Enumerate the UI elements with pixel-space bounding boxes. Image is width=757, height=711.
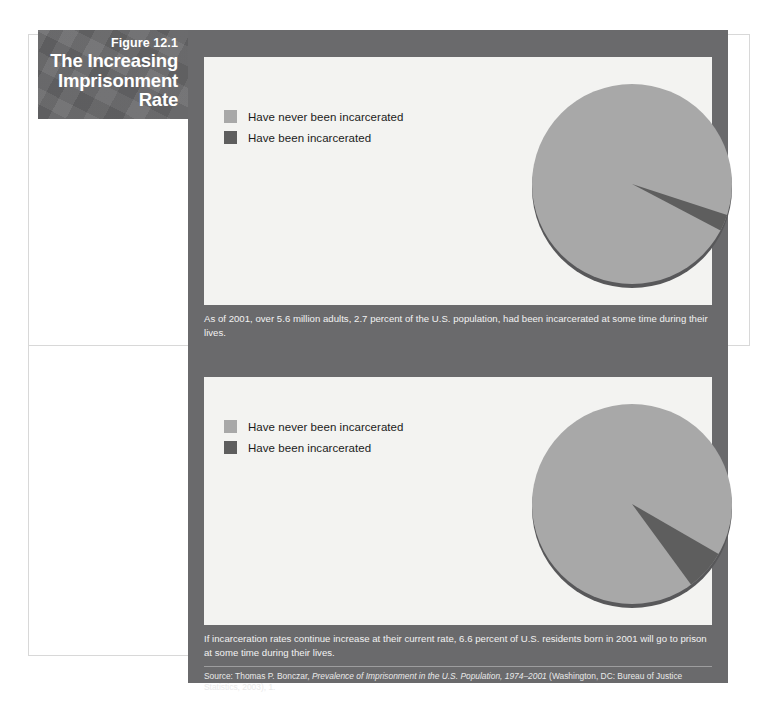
legend-swatch-icon-been-incarcerated [224, 441, 237, 454]
caption-bottom-chart: If incarceration rates continue increase… [204, 632, 712, 659]
figure-body: Have never been incarcerated Have been i… [188, 30, 728, 683]
pie-chart-bottom-svg [526, 398, 738, 610]
pie-chart-bottom [526, 398, 738, 610]
legend-item-been-incarcerated: Have been incarcerated [224, 127, 403, 148]
legend-label-never-incarcerated: Have never been incarcerated [248, 111, 403, 123]
legend-top-chart: Have never been incarcerated Have been i… [224, 106, 403, 148]
caption-top-chart: As of 2001, over 5.6 million adults, 2.7… [204, 312, 712, 339]
figure-number: Figure 12.1 [44, 37, 178, 50]
legend-swatch-icon-never-incarcerated [224, 420, 237, 433]
legend-label-been-incarcerated: Have been incarcerated [248, 132, 371, 144]
source-citation: Source: Thomas P. Bonczar, Prevalence of… [204, 671, 716, 694]
legend-bottom-chart: Have never been incarcerated Have been i… [224, 416, 403, 458]
legend-item-been-incarcerated: Have been incarcerated [224, 437, 403, 458]
page-outline-right [749, 34, 750, 345]
pie-chart-top [526, 78, 738, 290]
legend-swatch-icon-never-incarcerated [224, 110, 237, 123]
legend-label-been-incarcerated: Have been incarcerated [248, 442, 371, 454]
legend-swatch-icon-been-incarcerated [224, 131, 237, 144]
source-title: Prevalence of Imprisonment in the U.S. P… [312, 671, 547, 681]
figure-title: The Increasing Imprisonment Rate [44, 51, 178, 110]
source-prefix: Source: Thomas P. Bonczar, [204, 671, 312, 681]
figure-title-block: Figure 12.1 The Increasing Imprisonment … [38, 30, 188, 119]
legend-label-never-incarcerated: Have never been incarcerated [248, 421, 403, 433]
legend-item-never-incarcerated: Have never been incarcerated [224, 106, 403, 127]
source-divider [204, 666, 712, 667]
legend-item-never-incarcerated: Have never been incarcerated [224, 416, 403, 437]
pie-chart-top-svg [526, 78, 738, 290]
figure-page: Figure 12.1 The Increasing Imprisonment … [0, 0, 757, 711]
